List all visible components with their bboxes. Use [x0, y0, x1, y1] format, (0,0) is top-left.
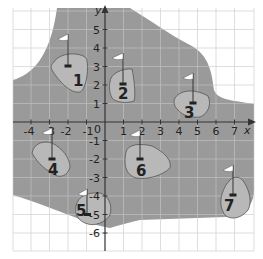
hole-label-7: 7 — [224, 197, 234, 215]
y-tick-label: 2 — [93, 79, 100, 92]
hole-label-2: 2 — [118, 85, 128, 103]
y-tick-label: 5 — [93, 24, 100, 37]
x-tick-label: 3 — [157, 125, 164, 138]
y-axis-label: y — [94, 4, 102, 17]
golf-course-diagram: -4 -3 -2 -1 1 2 3 4 5 6 7 x 0 5 4 3 2 1 … — [0, 0, 263, 259]
x-tick-label: -4 — [24, 125, 35, 138]
x-tick-label: 7 — [231, 125, 238, 138]
x-tick-label: 1 — [120, 125, 127, 138]
y-tick-label: -4 — [89, 190, 100, 203]
hole-label-4: 4 — [48, 161, 58, 179]
y-tick-label: 3 — [93, 61, 100, 74]
coordinate-plane: -4 -3 -2 -1 1 2 3 4 5 6 7 x 0 5 4 3 2 1 … — [0, 0, 263, 259]
hole-marker — [65, 65, 72, 68]
x-tick-label: 6 — [213, 125, 220, 138]
hole-label-3: 3 — [184, 104, 194, 122]
hole-label-5: 5 — [76, 202, 86, 220]
x-tick-label: 4 — [176, 125, 183, 138]
hole-label-1: 1 — [73, 72, 83, 90]
y-tick-label: 1 — [93, 98, 100, 111]
x-axis-label: x — [243, 124, 251, 137]
y-tick-label: -2 — [89, 153, 100, 166]
hole-label-6: 6 — [136, 162, 146, 180]
y-tick-label: -3 — [89, 172, 100, 185]
x-tick-label: -2 — [61, 125, 72, 138]
hole-marker — [137, 158, 144, 161]
y-tick-label: -6 — [89, 227, 100, 240]
y-tick-label: 4 — [93, 42, 100, 55]
y-tick-label: -1 — [89, 135, 100, 148]
x-tick-label: 5 — [194, 125, 201, 138]
